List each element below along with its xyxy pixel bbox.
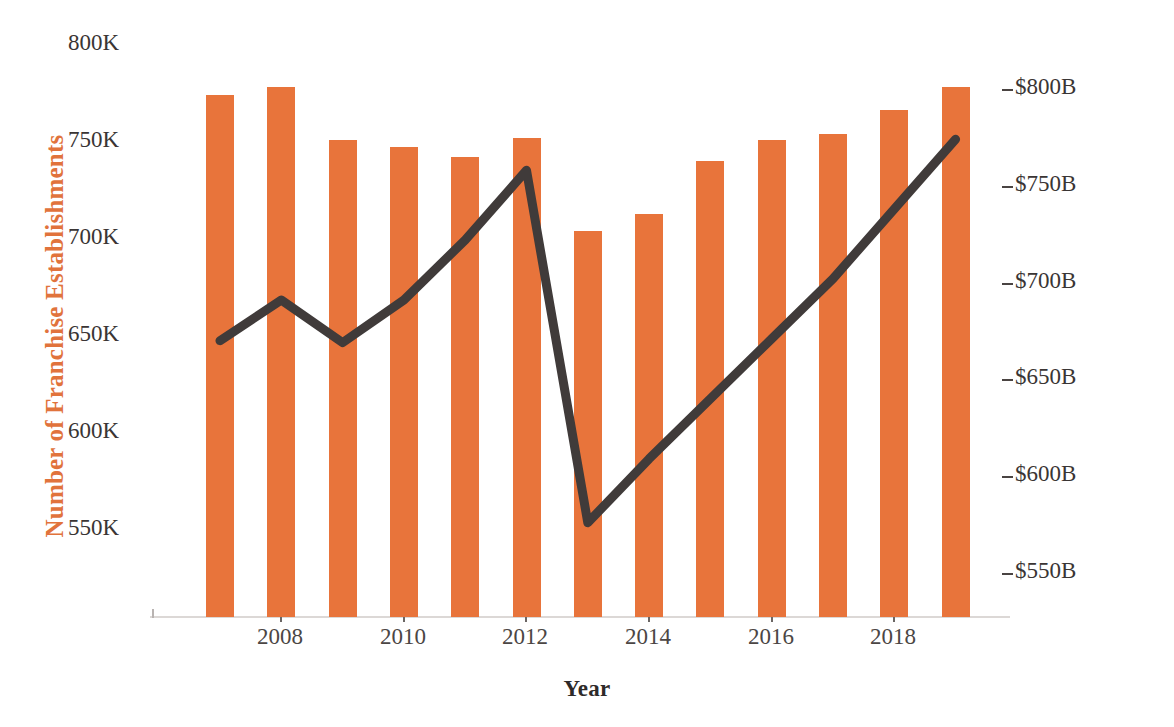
x-axis-origin-tick <box>152 609 154 618</box>
x-tick-label-2018: 2018 <box>853 624 933 650</box>
dual-axis-chart: Number of Franchise Establishments Outpu… <box>0 0 1174 727</box>
left-tick-label-700k: 700K <box>68 224 119 250</box>
x-tick-label-2008: 2008 <box>240 624 320 650</box>
x-tick-label-2010: 2010 <box>363 624 443 650</box>
left-axis-title: Number of Franchise Establishments <box>41 76 69 596</box>
right-tick-label-600b: $600B <box>1015 461 1076 487</box>
x-tick-label-2012: 2012 <box>485 624 565 650</box>
x-tick-label-2014: 2014 <box>608 624 688 650</box>
left-tick-label-550k: 550K <box>68 515 119 541</box>
right-tick-label-800b: $800B <box>1015 74 1076 100</box>
right-tick-label-700b: $700B <box>1015 268 1076 294</box>
left-tick-label-750k: 750K <box>68 127 119 153</box>
left-tick-label-650k: 650K <box>68 321 119 347</box>
output-line-path <box>220 139 956 522</box>
right-tick-label-650b: $650B <box>1015 364 1076 390</box>
left-tick-label-800k: 800K <box>68 30 119 56</box>
x-axis-title: Year <box>0 676 1174 702</box>
x-tick-label-2016: 2016 <box>731 624 811 650</box>
line-series <box>155 28 1005 617</box>
right-tick-label-550b: $550B <box>1015 558 1076 584</box>
left-tick-label-600k: 600K <box>68 418 119 444</box>
right-tick-label-750b: $750B <box>1015 171 1076 197</box>
plot-area <box>155 28 1005 617</box>
